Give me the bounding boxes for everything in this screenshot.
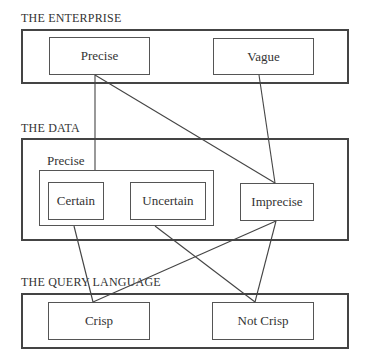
line-imprecise-to-not-crisp — [255, 221, 276, 302]
line-vague-to-imprecise — [259, 75, 275, 183]
connector-lines — [0, 0, 365, 360]
line-imprecise-to-crisp — [93, 221, 276, 302]
line-precise-to-imprecise — [95, 75, 275, 183]
line-certain-to-crisp — [74, 226, 93, 302]
